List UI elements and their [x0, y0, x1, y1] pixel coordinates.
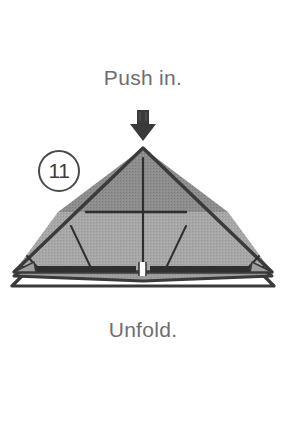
center-notch: [139, 262, 146, 276]
diagram-canvas: Push in. 11: [0, 0, 286, 440]
origami-figure: [0, 0, 286, 440]
instruction-caption-bottom: Unfold.: [0, 318, 286, 342]
push-in-arrow: [130, 110, 156, 141]
